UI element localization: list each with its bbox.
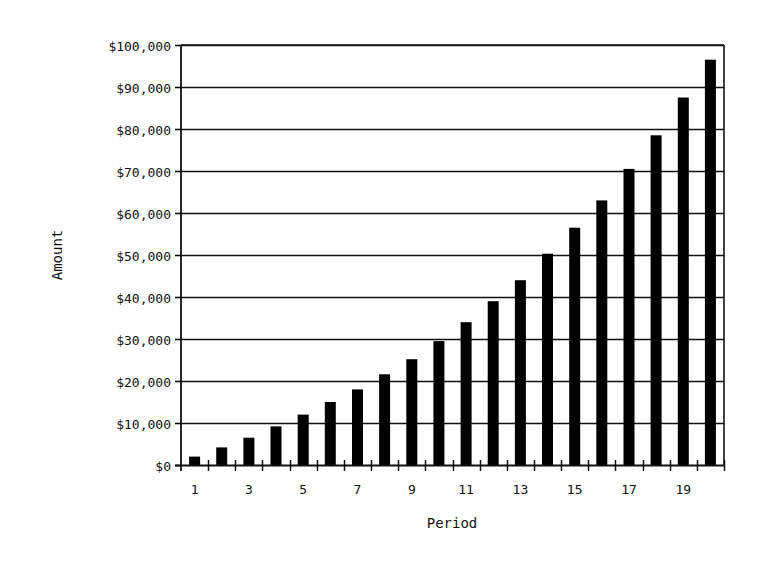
bar-chart: $0$10,000$20,000$30,000$40,000$50,000$60… <box>0 0 761 570</box>
y-tick-label: $40,000 <box>116 291 171 306</box>
bar-period-17 <box>624 169 635 465</box>
bar-period-10 <box>433 341 444 465</box>
bar-period-18 <box>651 135 662 465</box>
x-tick-label: 7 <box>354 482 362 497</box>
x-tick-label: 15 <box>567 482 583 497</box>
bar-period-5 <box>298 415 309 465</box>
x-tick-label: 17 <box>621 482 637 497</box>
x-tick-label: 5 <box>299 482 307 497</box>
gridlines <box>181 46 724 424</box>
y-axis-title: Amount <box>49 230 65 281</box>
x-tick-label: 1 <box>191 482 199 497</box>
x-tick-label: 11 <box>458 482 474 497</box>
bar-period-13 <box>515 280 526 465</box>
bar-series <box>189 60 716 465</box>
bar-period-12 <box>488 301 499 465</box>
bar-period-2 <box>216 447 227 465</box>
x-axis-tick-labels: 135791113151719 <box>191 482 691 497</box>
bar-period-6 <box>325 402 336 465</box>
y-tick-label: $30,000 <box>116 333 171 348</box>
y-tick-label: $50,000 <box>116 249 171 264</box>
bar-period-7 <box>352 389 363 465</box>
x-axis-title: Period <box>427 515 478 531</box>
y-tick-label: $100,000 <box>108 39 171 54</box>
y-axis-tick-labels: $0$10,000$20,000$30,000$40,000$50,000$60… <box>108 39 171 474</box>
y-tick-label: $90,000 <box>116 81 171 96</box>
bar-period-1 <box>189 457 200 465</box>
y-tick-label: $0 <box>155 459 171 474</box>
x-tick-label: 9 <box>408 482 416 497</box>
bar-period-9 <box>406 359 417 465</box>
bar-period-14 <box>542 254 553 465</box>
bar-period-3 <box>243 438 254 465</box>
axes <box>175 45 725 471</box>
y-tick-label: $10,000 <box>116 417 171 432</box>
bar-period-16 <box>596 200 607 465</box>
bar-period-15 <box>569 228 580 465</box>
bar-period-19 <box>678 98 689 466</box>
bar-period-11 <box>461 322 472 465</box>
x-tick-label: 3 <box>245 482 253 497</box>
x-tick-label: 19 <box>675 482 691 497</box>
y-tick-label: $70,000 <box>116 165 171 180</box>
bar-period-8 <box>379 374 390 465</box>
bar-period-20 <box>705 60 716 465</box>
y-tick-label: $80,000 <box>116 123 171 138</box>
y-tick-label: $60,000 <box>116 207 171 222</box>
x-tick-label: 13 <box>513 482 529 497</box>
bar-period-4 <box>271 426 282 465</box>
y-tick-label: $20,000 <box>116 375 171 390</box>
